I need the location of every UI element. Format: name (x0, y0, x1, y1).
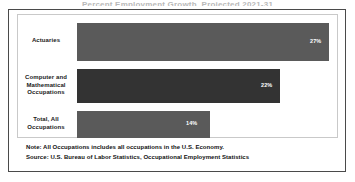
bar-value-total-all: 14% (186, 120, 197, 126)
bars-area: Actuaries 27% Computer and Mathematical … (18, 15, 339, 139)
bar-label-total-all: Total, All Occupations (18, 116, 74, 131)
footnote-source: Source: U.S. Bureau of Labor Statistics,… (26, 153, 326, 163)
bar-actuaries (77, 23, 329, 61)
bar-value-actuaries: 27% (310, 38, 321, 44)
bar-value-computer-math: 22% (261, 82, 272, 88)
bar-row: Actuaries 27% (18, 23, 339, 61)
bar-label-line: Occupations (18, 89, 74, 97)
bar-label-actuaries: Actuaries (18, 37, 74, 45)
footnote-note: Note: All Occupations includes all occup… (26, 143, 326, 153)
bar-label-line: Occupations (18, 124, 74, 132)
chart-figure: Percent Employment Growth, Projected 202… (0, 0, 355, 182)
bar-label-line: Computer and (18, 74, 74, 82)
plot-area-frame: Actuaries 27% Computer and Mathematical … (17, 14, 338, 138)
bar-label-computer-math: Computer and Mathematical Occupations (18, 74, 74, 97)
bar-label-line: Total, All (18, 116, 74, 124)
chart-footnote: Note: All Occupations includes all occup… (26, 143, 326, 162)
bar-computer-math (77, 69, 280, 103)
bar-label-line: Actuaries (32, 37, 60, 43)
chart-title-clipped: Percent Employment Growth, Projected 202… (0, 0, 355, 6)
bar-row: Computer and Mathematical Occupations 22… (18, 69, 339, 103)
bar-label-line: Mathematical (18, 82, 74, 90)
bar-row: Total, All Occupations 14% (18, 111, 339, 138)
